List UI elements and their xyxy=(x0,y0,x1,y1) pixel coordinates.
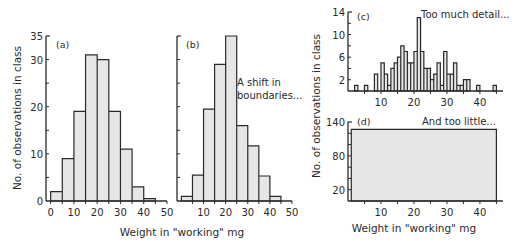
panel-label: (d) xyxy=(357,116,370,127)
x-tick-label: 30 xyxy=(441,97,454,108)
x-tick-label: 40 xyxy=(137,207,150,218)
histogram-bars xyxy=(181,36,281,201)
x-axis-label-right: Weight in "working" mg xyxy=(352,222,476,234)
x-tick-label: 20 xyxy=(408,97,421,108)
x-tick-label: 50 xyxy=(286,207,299,218)
x-tick-label: 50 xyxy=(161,207,174,218)
histogram-bars xyxy=(355,18,497,91)
panel-b: 1020304050(b)A shift inboundaries... xyxy=(177,36,302,218)
panel-label: (b) xyxy=(186,39,199,50)
y-tick-label: 6 xyxy=(339,52,345,63)
x-tick-label: 30 xyxy=(241,207,254,218)
y-axis-label-right: No. of observations in class xyxy=(310,34,322,178)
y-tick-label: 10 xyxy=(30,149,43,160)
x-tick-label: 10 xyxy=(375,207,388,218)
y-tick-label: 14 xyxy=(332,7,345,18)
histogram-figure: No. of observations in class 01020304050… xyxy=(0,0,518,246)
x-tick-label: 10 xyxy=(375,97,388,108)
y-tick-label: 35 xyxy=(30,31,43,42)
y-tick-label: 30 xyxy=(30,55,43,66)
annotation: boundaries... xyxy=(237,90,302,101)
x-tick-label: 20 xyxy=(408,207,421,218)
y-tick-label: 20 xyxy=(332,185,345,196)
y-tick-label: 80 xyxy=(332,151,345,162)
panel-d: 102030402080140(d)And too little... xyxy=(326,116,503,218)
x-tick-label: 10 xyxy=(197,207,210,218)
x-tick-label: 20 xyxy=(91,207,104,218)
histogram-bars xyxy=(51,55,156,201)
y-tick-label: 0 xyxy=(37,196,43,207)
panel-label: (c) xyxy=(357,11,370,22)
annotation: A shift in xyxy=(237,77,281,88)
y-tick-label: 20 xyxy=(30,102,43,113)
x-tick-label: 20 xyxy=(219,207,232,218)
x-tick-label: 40 xyxy=(264,207,277,218)
x-tick-label: 0 xyxy=(47,207,53,218)
x-tick-label: 40 xyxy=(474,207,487,218)
y-tick-label: 140 xyxy=(326,117,345,128)
x-tick-label: 30 xyxy=(114,207,127,218)
panel-c: 10203040261014(c)Too much detail... xyxy=(332,7,509,108)
y-tick-label: 10 xyxy=(332,30,345,41)
panel-label: (a) xyxy=(56,39,69,50)
panel-a: 01020304050010203035(a) xyxy=(30,31,173,218)
y-tick-label: 2 xyxy=(339,75,345,86)
x-tick-label: 30 xyxy=(441,207,454,218)
annotation: Too much detail... xyxy=(420,9,510,20)
x-tick-label: 10 xyxy=(68,207,81,218)
x-tick-label: 40 xyxy=(474,97,487,108)
x-axis-label-left: Weight in "working" mg xyxy=(120,226,244,238)
annotation: And too little... xyxy=(422,116,496,127)
histogram-bars xyxy=(351,129,496,201)
y-axis-label-left: No. of observations in class xyxy=(11,46,23,190)
